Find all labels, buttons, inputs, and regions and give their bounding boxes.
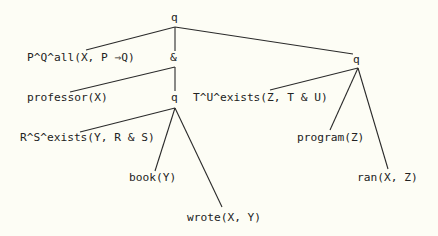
node-exists-tu: T^U^exists(Z, T & U) [193, 91, 328, 104]
edge-root-q-right [175, 27, 353, 54]
edge-q-mid-wrote [175, 108, 222, 207]
node-q-right: q [353, 53, 360, 66]
edge-q-right-program [330, 68, 358, 130]
node-all: P^Q^all(X, P ⇒Q) [27, 51, 135, 64]
node-ran: ran(X, Z) [357, 171, 418, 184]
node-book: book(Y) [129, 171, 176, 184]
tree-edges [0, 0, 438, 236]
edge-q-mid-exists-rs [80, 108, 175, 132]
edge-q-right-ran [358, 68, 388, 169]
node-wrote: wrote(X, Y) [187, 211, 261, 224]
edge-root-all [86, 27, 175, 50]
node-professor: professor(X) [27, 91, 108, 104]
edge-q-mid-book [155, 108, 175, 171]
node-exists-rs: R^S^exists(Y, R & S) [20, 131, 155, 144]
node-root-q: q [171, 11, 178, 24]
node-and: & [170, 51, 177, 64]
edge-and-professor [70, 67, 175, 92]
edge-q-right-exists-tu [270, 68, 358, 90]
node-q-mid: q [171, 91, 178, 104]
node-program: program(Z) [297, 131, 364, 144]
